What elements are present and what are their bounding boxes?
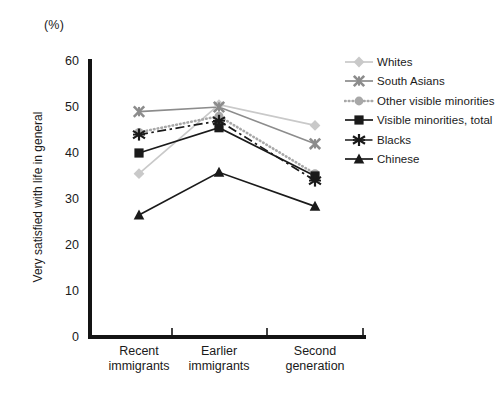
legend-label: Other visible minorities [374,95,495,107]
marker-square [354,116,363,125]
marker-cross [310,139,320,149]
y-tick-label: 60 [49,55,79,68]
legend-item-whites[interactable]: Whites [344,52,495,72]
legend-label: Visible minorities, total [374,114,492,126]
y-tick-label: 50 [49,101,79,114]
series-south-asians [139,107,315,144]
legend-label: South Asians [374,75,445,87]
x-tick-label-line: immigrants [164,359,274,374]
marker-circle [355,96,364,105]
y-tick-label: 20 [49,239,79,252]
legend-marker-circle-icon [344,93,374,109]
legend-item-visible-minorities-total[interactable]: Visible minorities, total [344,111,495,131]
legend-marker-triangle-icon [344,151,374,167]
legend-label: Chinese [374,153,420,165]
series-chinese [139,172,315,215]
y-tick-label: 0 [49,331,79,344]
unit-label: (%) [44,18,64,32]
y-tick-label: 40 [49,147,79,160]
chart-legend: WhitesSouth AsiansOther visible minoriti… [344,52,495,169]
marker-diamond [354,56,365,67]
x-tick-label-line: Second [260,344,370,359]
series-line [139,107,315,144]
marker-square [134,148,143,157]
x-tick-label-line: generation [260,359,370,374]
x-tick-label-line: Earlier [164,344,274,359]
legend-marker-asterisk-icon [344,132,374,148]
marker-triangle [134,210,145,220]
series-markers-south-asians [134,102,320,149]
legend-marker-cross-icon [344,73,374,89]
legend-item-south-asians[interactable]: South Asians [344,72,495,92]
legend-item-other-visible-minorities[interactable]: Other visible minorities [344,91,495,111]
legend-marker-square-icon [344,112,374,128]
series-line [139,172,315,215]
x-tick-label: Secondgeneration [260,344,370,374]
legend-label: Whites [374,56,412,68]
legend-label: Blacks [374,134,411,146]
legend-item-blacks[interactable]: Blacks [344,130,495,150]
legend-marker-diamond-icon [344,54,374,70]
marker-asterisk [353,134,365,146]
legend-item-chinese[interactable]: Chinese [344,150,495,170]
y-tick-label: 30 [49,193,79,206]
y-tick-label: 10 [49,285,79,298]
marker-triangle [214,167,225,177]
marker-diamond [310,120,321,131]
y-axis-title: Very satisfied with life in general [31,77,45,317]
x-tick-label: Earlierimmigrants [164,344,274,374]
